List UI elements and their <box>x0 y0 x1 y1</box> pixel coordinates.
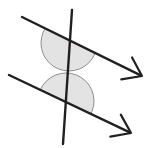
geometry-figure <box>0 0 146 148</box>
geometry-canvas <box>0 0 146 148</box>
